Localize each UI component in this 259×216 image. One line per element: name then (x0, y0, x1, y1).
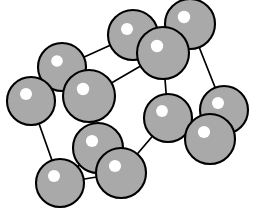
atom-sphere-a9 (185, 114, 235, 164)
atom-highlight-a10 (86, 135, 98, 147)
atom-body-a6 (7, 77, 55, 125)
atom-highlight-a11 (109, 160, 121, 172)
atom-highlight-a1 (121, 23, 133, 35)
atom-highlight-a6 (20, 88, 32, 100)
atom-sphere-a12 (36, 159, 84, 207)
atom-body-a11 (96, 148, 146, 198)
atom-highlight-a9 (198, 126, 210, 138)
atom-sphere-a11 (96, 148, 146, 198)
atom-highlight-a7 (156, 105, 168, 117)
atom-spheres-group (7, 0, 248, 207)
atom-highlight-a5 (77, 83, 89, 95)
atom-body-a12 (36, 159, 84, 207)
atom-body-a5 (63, 70, 115, 122)
atom-highlight-a3 (151, 40, 163, 52)
atom-highlight-a8 (212, 97, 224, 109)
lattice-diagram-canvas (0, 0, 259, 216)
atom-body-a3 (137, 27, 189, 79)
atom-sphere-a6 (7, 77, 55, 125)
atom-highlight-a4 (51, 55, 63, 67)
atom-sphere-a3 (137, 27, 189, 79)
atom-body-a9 (185, 114, 235, 164)
crystal-lattice-figure (0, 0, 259, 216)
atom-highlight-a12 (48, 170, 60, 182)
atom-highlight-a2 (178, 11, 190, 23)
atom-sphere-a5 (63, 70, 115, 122)
